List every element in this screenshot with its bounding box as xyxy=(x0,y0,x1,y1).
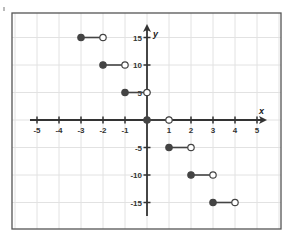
x-tick-label: 3 xyxy=(211,126,216,135)
x-tick-label: 5 xyxy=(255,126,260,135)
y-tick-label: -10 xyxy=(130,171,142,180)
x-tick-label: -5 xyxy=(33,126,41,135)
x-tick-label: -2 xyxy=(99,126,107,135)
closed-endpoint xyxy=(78,34,84,40)
x-axis-label: x xyxy=(258,106,265,116)
open-endpoint xyxy=(232,199,238,205)
open-endpoint xyxy=(210,172,216,178)
closed-endpoint xyxy=(166,144,172,150)
closed-endpoint xyxy=(188,172,194,178)
open-endpoint xyxy=(122,62,128,68)
closed-endpoint xyxy=(210,199,216,205)
open-endpoint xyxy=(100,34,106,40)
y-tick-label: -5 xyxy=(135,144,143,153)
y-tick-label: 10 xyxy=(133,61,142,70)
y-axis-label: y xyxy=(152,29,159,39)
y-tick-label: 15 xyxy=(133,34,142,43)
open-endpoint xyxy=(166,117,172,123)
x-tick-label: 2 xyxy=(189,126,194,135)
x-tick-label: -3 xyxy=(77,126,85,135)
step-function-graph: -5-4-3-2-112345-15-10-551015 x y xyxy=(0,0,288,243)
closed-endpoint xyxy=(144,117,150,123)
x-tick-label: -1 xyxy=(121,126,129,135)
closed-endpoint xyxy=(122,89,128,95)
open-endpoint xyxy=(188,144,194,150)
open-endpoint xyxy=(144,89,150,95)
x-tick-label: 1 xyxy=(167,126,172,135)
y-tick-label: -15 xyxy=(130,199,142,208)
closed-endpoint xyxy=(100,62,106,68)
x-tick-label: -4 xyxy=(55,126,63,135)
x-tick-label: 4 xyxy=(233,126,238,135)
